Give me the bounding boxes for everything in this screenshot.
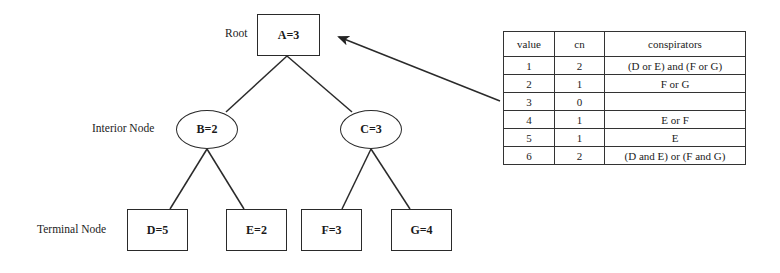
cell-cn: 1 xyxy=(555,129,605,147)
cell-cn: 2 xyxy=(555,57,605,75)
header-value: value xyxy=(504,32,555,57)
node-f-terminal: F=3 xyxy=(301,209,362,251)
node-e-terminal: E=2 xyxy=(226,209,287,251)
edge-c-f xyxy=(342,149,371,209)
edge-b-d xyxy=(170,149,207,209)
edge-c-g xyxy=(371,149,410,209)
cell-value: 6 xyxy=(504,147,555,165)
table-row: 1 2 (D or E) and (F or G) xyxy=(504,57,746,75)
table-header-row: value cn conspirators xyxy=(504,32,746,57)
table-row: 4 1 E or F xyxy=(504,111,746,129)
table-row: 3 0 xyxy=(504,93,746,111)
header-conspirators: conspirators xyxy=(605,32,746,57)
cell-conspirators: (D and E) or (F and G) xyxy=(605,147,746,165)
conspiracy-table: value cn conspirators 1 2 (D or E) and (… xyxy=(503,31,746,165)
pointer-arrow xyxy=(339,37,500,101)
cell-conspirators: (D or E) and (F or G) xyxy=(605,57,746,75)
cell-cn: 2 xyxy=(555,147,605,165)
node-d-terminal: D=5 xyxy=(127,209,188,251)
interior-node-label: Interior Node xyxy=(92,122,154,134)
cell-value: 3 xyxy=(504,93,555,111)
cell-conspirators: E xyxy=(605,129,746,147)
node-a-root: A=3 xyxy=(257,14,320,56)
header-cn: cn xyxy=(555,32,605,57)
terminal-node-label: Terminal Node xyxy=(37,223,106,235)
cell-conspirators: E or F xyxy=(605,111,746,129)
cell-cn: 0 xyxy=(555,93,605,111)
cell-value: 2 xyxy=(504,75,555,93)
root-label: Root xyxy=(225,27,247,39)
edge-b-e xyxy=(207,149,244,209)
edge-a-c xyxy=(287,56,352,112)
cell-conspirators xyxy=(605,93,746,111)
node-c-interior: C=3 xyxy=(340,110,402,149)
table-row: 6 2 (D and E) or (F and G) xyxy=(504,147,746,165)
cell-conspirators: F or G xyxy=(605,75,746,93)
cell-value: 5 xyxy=(504,129,555,147)
cell-cn: 1 xyxy=(555,111,605,129)
node-g-terminal: G=4 xyxy=(391,209,452,251)
cell-value: 4 xyxy=(504,111,555,129)
node-b-interior: B=2 xyxy=(176,110,238,149)
table-row: 2 1 F or G xyxy=(504,75,746,93)
cell-value: 1 xyxy=(504,57,555,75)
cell-cn: 1 xyxy=(555,75,605,93)
game-tree-diagram: Root Interior Node Terminal Node A=3 B=2… xyxy=(0,0,780,273)
table-row: 5 1 E xyxy=(504,129,746,147)
edge-a-b xyxy=(226,56,287,112)
